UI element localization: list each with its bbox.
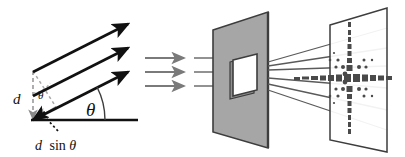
observation-screen [268, 8, 392, 152]
pattern-dot [363, 95, 366, 98]
pattern-dot [348, 101, 352, 106]
outgoing-ray-middle [33, 48, 128, 96]
pattern-dot [333, 52, 335, 54]
pattern-dot [364, 65, 367, 68]
pattern-dot [348, 122, 351, 127]
pattern-dash [378, 76, 384, 81]
pattern-dash [302, 77, 309, 80]
pattern-dash [336, 75, 342, 82]
pattern-dot [357, 65, 361, 69]
aperture-opening [233, 54, 257, 96]
label-dsin-sin: sin [50, 138, 66, 153]
pattern-dash [362, 75, 368, 82]
theta-angle-arc [97, 87, 105, 120]
label-dsin-d: d [35, 138, 43, 153]
path-difference-construction: d θ θ d sin θ [13, 24, 138, 153]
diffraction-figure: d θ θ d sin θ [0, 0, 405, 157]
pattern-dot [329, 59, 332, 62]
pattern-dot [336, 94, 339, 97]
pattern-dot [329, 95, 332, 98]
pattern-dot [347, 94, 352, 99]
dsin-leader-line [44, 116, 58, 131]
label-theta-small: θ [38, 89, 44, 101]
pattern-dot [364, 87, 367, 90]
pattern-dot [347, 86, 353, 92]
outgoing-ray-bottom [33, 72, 128, 120]
pattern-dash [294, 77, 300, 80]
pattern-dot [371, 59, 373, 61]
pattern-dot [347, 58, 352, 63]
pattern-dot [371, 95, 373, 97]
label-dsin-theta: θ [69, 138, 76, 153]
pattern-dot [336, 58, 339, 61]
label-theta-large: θ [86, 99, 95, 120]
pattern-dot [348, 44, 352, 49]
pattern-dash [320, 76, 326, 81]
pattern-dash [353, 74, 360, 82]
label-d: d [13, 91, 21, 107]
pattern-dot [334, 65, 337, 68]
pattern-dot [343, 72, 348, 77]
pattern-dot [347, 65, 353, 71]
pattern-dot [334, 87, 337, 90]
pattern-dot [341, 65, 345, 69]
slit-plate [213, 12, 268, 148]
pattern-dot [348, 37, 351, 42]
pattern-dot [333, 102, 335, 104]
pattern-dot [348, 108, 352, 113]
pattern-dot [348, 51, 352, 56]
pattern-dot [363, 59, 366, 62]
pattern-dash [386, 76, 392, 80]
pattern-dot [343, 80, 348, 85]
pattern-dot [348, 129, 351, 134]
pattern-dot [341, 87, 345, 91]
pattern-dash [328, 75, 334, 81]
pattern-dot [348, 22, 351, 27]
label-path-difference: d sin θ [35, 138, 76, 153]
pattern-dot [357, 87, 361, 91]
outgoing-ray-top [33, 24, 128, 72]
pattern-dash [311, 76, 318, 80]
pattern-dash [370, 75, 376, 81]
pattern-dot [348, 30, 351, 35]
pattern-dot [348, 115, 351, 120]
figure-canvas: d θ θ d sin θ [0, 0, 405, 157]
